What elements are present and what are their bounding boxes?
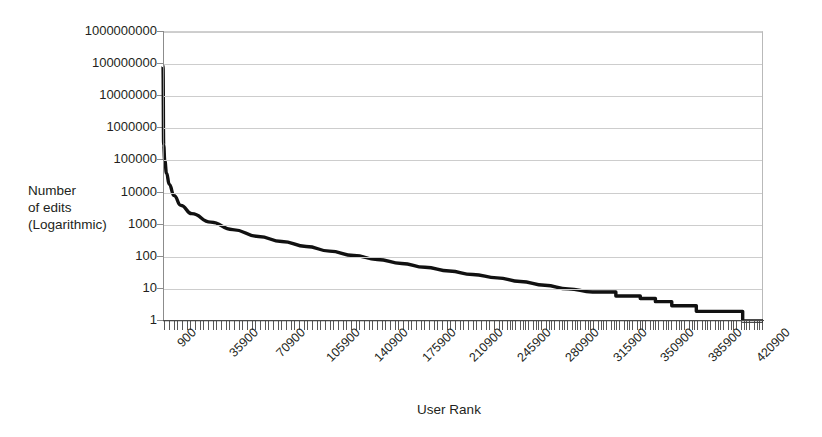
x-tick-label: 105900: [324, 326, 362, 364]
x-tick-label: 35900: [227, 326, 260, 359]
y-axis-ticks: 1000000000100000000100000001000000100000…: [0, 0, 157, 437]
y-tick-label: 1000000: [106, 120, 157, 133]
gridline: [163, 32, 762, 33]
gridline: [163, 64, 762, 65]
plot-area: [163, 31, 763, 320]
gridline: [163, 257, 762, 258]
y-tick-label: 100: [135, 249, 157, 262]
x-tick-label: 175900: [420, 326, 458, 364]
y-tick-label: 100000: [114, 152, 157, 165]
y-tick-label: 1000000000: [85, 24, 157, 37]
x-tick-label: 315900: [611, 326, 649, 364]
gridline: [163, 96, 762, 97]
x-tick-label: 140900: [372, 326, 410, 364]
x-tick-label: 350900: [658, 326, 696, 364]
x-tick-label: 420900: [754, 326, 792, 364]
data-series-edits: [163, 32, 763, 321]
x-tick-label: 280900: [563, 326, 601, 364]
gridline: [163, 128, 762, 129]
y-tick-label: 100000000: [92, 56, 157, 69]
y-tick-label: 10000000: [99, 88, 157, 101]
chart-container: Number of edits (Logarithmic) 1000000000…: [0, 0, 822, 437]
gridline: [163, 193, 762, 194]
x-tick-label: 70900: [275, 326, 308, 359]
y-tick-label: 1000: [128, 217, 157, 230]
x-axis-title: User Rank: [0, 402, 822, 417]
gridline: [163, 289, 762, 290]
y-tick-label: 1: [150, 313, 157, 326]
x-tick-label: 210900: [468, 326, 506, 364]
y-tick-label: 10: [143, 281, 157, 294]
y-axis-line: [163, 31, 164, 321]
gridline: [163, 160, 762, 161]
x-axis-title-label: User Rank: [417, 402, 481, 417]
x-tick-label: 245900: [515, 326, 553, 364]
y-tick-label: 10000: [121, 185, 157, 198]
x-tick-label: 385900: [706, 326, 744, 364]
gridline: [163, 225, 762, 226]
